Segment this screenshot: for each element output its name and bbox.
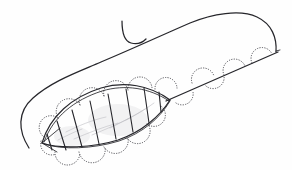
graphite-smudge	[88, 104, 148, 136]
scallop-arc	[251, 48, 272, 63]
leaf-vein	[159, 92, 161, 112]
scallop-arc	[55, 152, 80, 165]
sketch-canvas	[0, 0, 292, 170]
scallop-arc	[223, 59, 245, 75]
scallop-arc	[79, 88, 104, 105]
hook-mark	[122, 21, 146, 44]
scallop-arc	[191, 68, 214, 83]
scallop-arc	[155, 77, 177, 89]
drawing-surface	[0, 0, 292, 170]
scallop-arc	[79, 147, 105, 163]
stem-line	[166, 52, 278, 101]
scallop-arc	[176, 92, 193, 105]
paper-smudges	[54, 104, 148, 146]
stem-group	[166, 50, 280, 101]
